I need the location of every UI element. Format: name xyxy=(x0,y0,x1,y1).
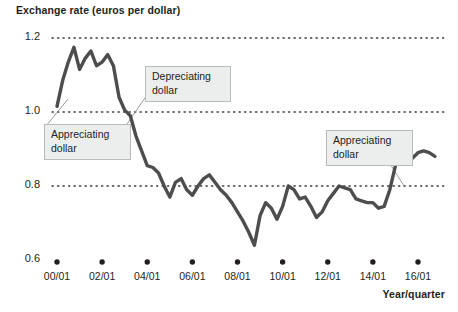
annotation-line-1: Depreciating xyxy=(152,70,224,84)
x-tick-mark xyxy=(235,259,240,264)
annotation-appreciating-dollar-late: Appreciatingdollar xyxy=(326,130,413,166)
x-tick-mark xyxy=(54,259,59,264)
x-tick-mark xyxy=(99,259,104,264)
x-tick-mark xyxy=(325,259,330,264)
x-axis-title: Year/quarter xyxy=(383,288,445,300)
x-axis-tick-marks xyxy=(54,259,420,264)
annotation-appreciating-dollar-early: Appreciatingdollar xyxy=(44,124,131,160)
annotation-line-1: Appreciating xyxy=(51,128,124,142)
annotation-line-2: dollar xyxy=(333,148,406,162)
x-tick-mark xyxy=(370,259,375,264)
annotation-depreciating-dollar: Depreciatingdollar xyxy=(145,66,231,102)
chart-container: Exchange rate (euros per dollar) 1.21.00… xyxy=(0,0,458,312)
x-tick-mark xyxy=(190,259,195,264)
annotation-line-2: dollar xyxy=(152,84,224,98)
x-tick-mark xyxy=(415,259,420,264)
x-tick-mark xyxy=(280,259,285,264)
x-tick-mark xyxy=(145,259,150,264)
annotation-line-1: Appreciating xyxy=(333,134,406,148)
annotation-line-2: dollar xyxy=(51,142,124,156)
